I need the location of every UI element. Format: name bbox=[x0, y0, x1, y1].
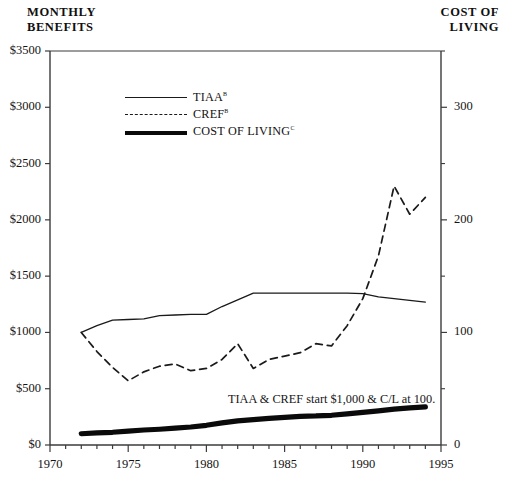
ytick-label-left-0: $0 bbox=[29, 437, 42, 452]
ytick-label-right-0: 0 bbox=[454, 437, 460, 452]
chart-root: MONTHLY BENEFITS COST OF LIVING TIAAb CR… bbox=[0, 0, 511, 484]
xtick-label-1995: 1995 bbox=[415, 457, 467, 472]
series-line-cost-of-living bbox=[81, 407, 425, 434]
ytick-label-right-200: 200 bbox=[454, 212, 473, 227]
xtick-label-1980: 1980 bbox=[180, 457, 232, 472]
ytick-label-left-3000: $3000 bbox=[10, 99, 41, 114]
ytick-label-right-100: 100 bbox=[454, 324, 473, 339]
ytick-label-left-500: $500 bbox=[16, 381, 41, 396]
xtick-label-1970: 1970 bbox=[24, 457, 76, 472]
series-line-tiaa bbox=[81, 293, 425, 332]
plot-area bbox=[0, 0, 511, 484]
ytick-label-left-1500: $1500 bbox=[10, 268, 41, 283]
ytick-label-left-1000: $1000 bbox=[10, 324, 41, 339]
xtick-label-1985: 1985 bbox=[259, 457, 311, 472]
xtick-label-1975: 1975 bbox=[102, 457, 154, 472]
series-line-cref bbox=[81, 186, 425, 381]
ytick-label-left-3500: $3500 bbox=[10, 43, 41, 58]
ytick-label-left-2000: $2000 bbox=[10, 212, 41, 227]
ytick-label-left-2500: $2500 bbox=[10, 156, 41, 171]
ytick-label-right-300: 300 bbox=[454, 99, 473, 114]
xtick-label-1990: 1990 bbox=[337, 457, 389, 472]
